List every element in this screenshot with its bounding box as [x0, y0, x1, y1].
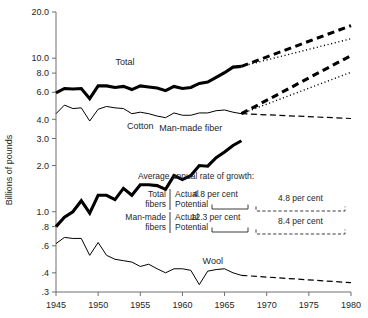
annotation-group-label: Total	[148, 189, 166, 199]
annotation-actual-value: 4.8 per cent	[193, 189, 239, 199]
y-tick-label: .8	[41, 222, 49, 232]
annotation-group-label: fibers	[145, 222, 166, 232]
y-tick-label: .6	[41, 241, 49, 251]
y-tick-label: 10.0	[31, 53, 49, 63]
annotation-potential-value: 4.8 per cent	[278, 193, 324, 203]
y-tick-label: 8.0	[36, 68, 49, 78]
y-tick-label: .4	[41, 268, 49, 278]
x-tick-label: 1955	[130, 300, 150, 310]
x-tick-label: 1950	[88, 300, 108, 310]
annotation-group-label: Man-made	[125, 212, 166, 222]
chart-background	[0, 0, 368, 318]
y-axis-title: Billions of pounds	[4, 134, 14, 205]
annotation-group-label: fibers	[145, 199, 166, 209]
y-tick-label: 20.0	[31, 7, 49, 17]
x-tick-label: 1970	[257, 300, 277, 310]
series-label: Man-made fiber	[159, 123, 222, 133]
fiber-consumption-chart: .3.4.6.81.02.03.04.06.08.010.020.0 19451…	[0, 0, 368, 318]
annotation-kind-potential: Potential	[175, 199, 208, 209]
y-tick-label: 4.0	[36, 115, 49, 125]
x-tick-label: 1965	[215, 300, 235, 310]
x-tick-label: 1975	[299, 300, 319, 310]
y-tick-label: .3	[41, 287, 49, 297]
x-tick-label: 1945	[46, 300, 66, 310]
series-label: Cotton	[127, 121, 154, 131]
annotation-actual-value: 12.3 per cent	[191, 212, 241, 222]
chart-container: .3.4.6.81.02.03.04.06.08.010.020.0 19451…	[0, 0, 368, 318]
y-tick-label: 6.0	[36, 87, 49, 97]
annotation-potential-value: 8.4 per cent	[278, 216, 324, 226]
x-tick-label: 1960	[172, 300, 192, 310]
y-tick-label: 1.0	[36, 207, 49, 217]
y-tick-label: 2.0	[36, 161, 49, 171]
x-tick-label: 1980	[341, 300, 361, 310]
annotation-kind-potential: Potential	[175, 222, 208, 232]
y-tick-label: 3.0	[36, 134, 49, 144]
annotation-heading: Average annual rate of growth:	[138, 171, 254, 181]
series-label: Total	[116, 57, 135, 67]
series-label: Wool	[203, 256, 223, 266]
